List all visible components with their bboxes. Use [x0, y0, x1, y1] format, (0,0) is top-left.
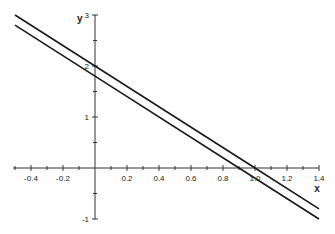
x-axis-label: x [314, 183, 320, 194]
x-tick-label: 1.2 [281, 174, 293, 183]
line-chart: -0.4-0.20.20.40.60.81.01.21.4-1123 x y [0, 0, 335, 234]
y-tick-label: 1 [85, 113, 90, 122]
x-tick-label: 0.8 [217, 174, 229, 183]
x-tick-label: -0.4 [24, 174, 38, 183]
series-line-2 [15, 25, 319, 219]
data-series [15, 15, 319, 219]
y-axis-label: y [77, 13, 83, 24]
x-tick-label: 0.6 [185, 174, 197, 183]
x-tick-label: -0.2 [56, 174, 70, 183]
y-tick-label: -1 [82, 215, 90, 224]
axes [13, 15, 319, 219]
y-tick-label: 3 [85, 11, 90, 20]
x-tick-label: 1.4 [313, 174, 325, 183]
ticks [15, 15, 319, 219]
x-tick-label: 0.2 [121, 174, 133, 183]
x-tick-label: 0.4 [153, 174, 165, 183]
